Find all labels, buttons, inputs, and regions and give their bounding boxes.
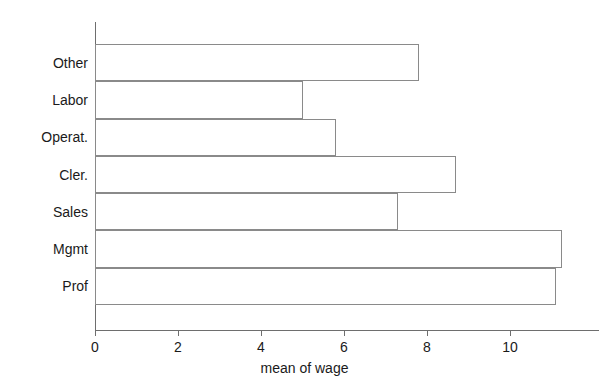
bar [95,230,562,267]
bar [95,268,556,305]
category-label: Operat. [41,129,88,145]
category-label: Labor [52,92,88,108]
x-tick-label: 6 [340,339,348,355]
x-tick-label: 4 [257,339,265,355]
category-label: Sales [53,204,88,220]
x-tick-label: 2 [174,339,182,355]
bar [95,156,456,193]
x-tick-label: 10 [502,339,518,355]
category-label: Cler. [59,167,88,183]
x-axis-line [95,330,599,331]
bar [95,44,419,81]
bar [95,193,398,230]
bar-chart: OtherLaborOperat.Cler.SalesMgmtProf 0246… [0,0,599,389]
category-label: Other [53,55,88,71]
x-tick-mark [95,330,96,336]
bar [95,81,303,118]
x-tick-mark [261,330,262,336]
category-label: Mgmt [53,241,88,257]
x-tick-label: 8 [423,339,431,355]
x-axis-title-text: mean of wage [261,360,349,376]
category-label: Prof [62,278,88,294]
x-tick-mark [510,330,511,336]
x-tick-label: 0 [91,339,99,355]
bar [95,119,336,156]
x-tick-mark [344,330,345,336]
x-tick-mark [427,330,428,336]
x-tick-mark [178,330,179,336]
x-axis-title: mean of wage [0,360,599,376]
